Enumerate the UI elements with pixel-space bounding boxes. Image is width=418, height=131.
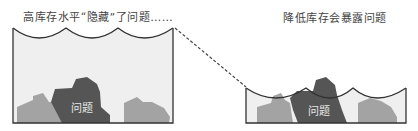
left-water-surface [13,28,173,38]
dashed-connector [175,28,246,87]
right-rock-label: 问题 [308,105,330,118]
left-rock-label: 问题 [71,102,93,115]
right-panel: 问题 [246,77,406,123]
inventory-diagram: 问题 问题 [0,0,418,131]
left-panel: 问题 [13,28,173,123]
